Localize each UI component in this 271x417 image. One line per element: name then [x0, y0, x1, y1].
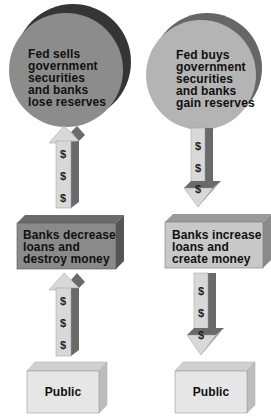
dollar-symbol: $ [191, 140, 205, 152]
right-disc-text: Fed buys government securities and banks… [176, 49, 255, 109]
dollar-symbol: $ [56, 317, 70, 329]
dollar-symbol: $ [56, 148, 70, 160]
dollar-symbol: $ [56, 295, 70, 307]
dollar-symbol: $ [56, 170, 70, 182]
dollar-symbol: $ [191, 183, 205, 195]
dollar-symbol: $ [194, 285, 208, 297]
text-line: create money [172, 253, 261, 265]
right-banks-text: Banks increase loans and create money [172, 229, 261, 265]
left-disc-text: Fed sells government securities and bank… [28, 48, 106, 108]
dollar-symbol: $ [194, 329, 208, 341]
dollar-symbol: $ [191, 162, 205, 174]
dollar-symbol: $ [56, 192, 70, 204]
text-line: gain reserves [176, 97, 255, 109]
right-public-label: Public [175, 386, 247, 398]
dollar-symbol: $ [194, 307, 208, 319]
text-line: lose reserves [28, 96, 106, 108]
dollar-symbol: $ [56, 339, 70, 351]
left-banks-text: Banks decrease loans and destroy money [23, 229, 116, 265]
left-public-label: Public [27, 386, 99, 398]
text-line: destroy money [23, 253, 116, 265]
